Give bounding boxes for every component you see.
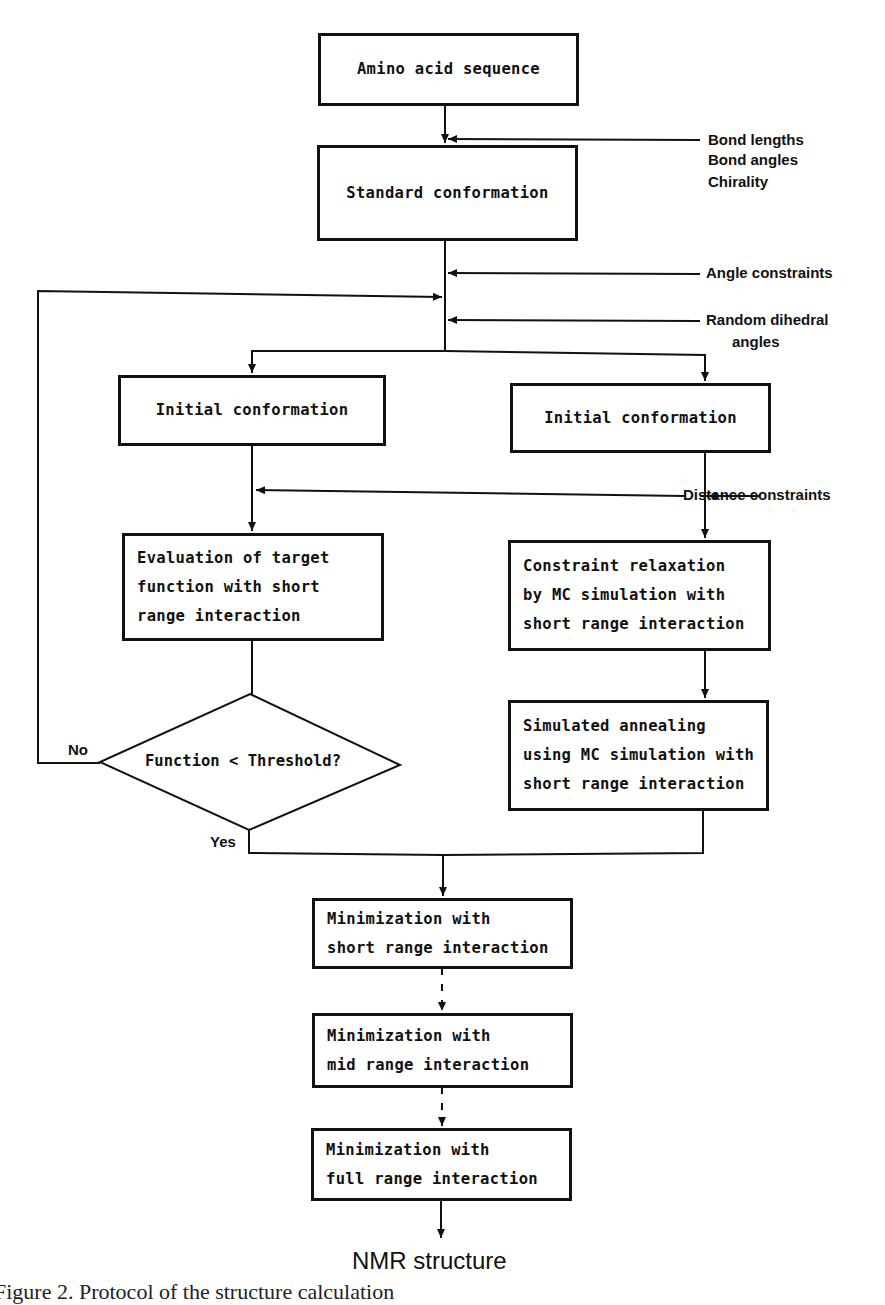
node-amino-acid-sequence: Amino acid sequence xyxy=(318,33,579,106)
node-label-line: Minimization with xyxy=(327,905,491,934)
output-nmr-structure: NMR structure xyxy=(352,1247,507,1275)
node-label-line: range interaction xyxy=(137,602,301,631)
node-initial-conformation-right: Initial conformation xyxy=(510,383,771,453)
node-label-line: short range interaction xyxy=(523,770,745,799)
decision-no-label: No xyxy=(68,740,88,760)
node-initial-conformation-left: Initial conformation xyxy=(118,375,386,446)
node-label-line: short range interaction xyxy=(327,934,549,963)
node-label: Initial conformation xyxy=(544,404,737,433)
node-standard-conformation: Standard conformation xyxy=(317,145,578,241)
node-label: Standard conformation xyxy=(346,179,548,208)
node-label-line: function with short xyxy=(137,573,320,602)
node-label: Amino acid sequence xyxy=(357,55,540,84)
decision-label: Function < Threshold? xyxy=(145,752,341,770)
node-minimization-short: Minimization with short range interactio… xyxy=(312,898,573,969)
input-random-dihedral-angles: angles xyxy=(732,332,780,352)
input-distance-constraints: Distance constraints xyxy=(683,485,831,505)
node-constraint-relaxation: Constraint relaxation by MC simulation w… xyxy=(508,540,771,651)
input-angle-constraints: Angle constraints xyxy=(706,263,833,283)
node-label-line: Minimization with xyxy=(326,1136,490,1165)
node-label: Initial conformation xyxy=(156,396,349,425)
input-bond-lengths: Bond lengths xyxy=(708,130,804,150)
node-minimization-full: Minimization with full range interaction xyxy=(311,1128,572,1201)
input-random-dihedral: Random dihedral xyxy=(706,310,829,330)
node-label-line: Minimization with xyxy=(327,1022,491,1051)
node-label-line: using MC simulation with xyxy=(523,741,754,770)
input-bond-angles: Bond angles xyxy=(708,150,798,170)
node-label-line: mid range interaction xyxy=(327,1051,529,1080)
node-label-line: Simulated annealing xyxy=(523,712,706,741)
node-evaluation: Evaluation of target function with short… xyxy=(122,533,384,641)
node-minimization-mid: Minimization with mid range interaction xyxy=(312,1013,573,1088)
node-label-line: Evaluation of target xyxy=(137,544,330,573)
node-label-line: full range interaction xyxy=(326,1165,538,1194)
node-simulated-annealing: Simulated annealing using MC simulation … xyxy=(508,700,769,811)
node-label-line: short range interaction xyxy=(523,610,745,639)
input-chirality: Chirality xyxy=(708,172,768,192)
node-label-line: Constraint relaxation xyxy=(523,552,725,581)
decision-yes-label: Yes xyxy=(210,832,236,852)
node-label-line: by MC simulation with xyxy=(523,581,725,610)
figure-caption: Figure 2. Protocol of the structure calc… xyxy=(0,1279,394,1305)
